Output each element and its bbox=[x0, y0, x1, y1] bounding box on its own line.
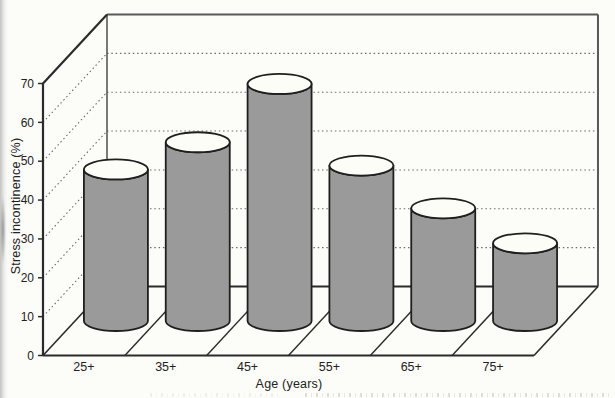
bar-cylinder-75+ bbox=[493, 243, 557, 331]
bar-cylinder-35+ bbox=[166, 142, 230, 331]
x-category-label-55+: 55+ bbox=[319, 360, 340, 374]
gridline-leftwall-60 bbox=[43, 53, 107, 122]
chart-canvas: 01020304050607025+35+45+55+65+75+ bbox=[0, 0, 615, 398]
bar-top-35+ bbox=[166, 132, 230, 152]
bar-top-25+ bbox=[84, 159, 148, 179]
x-category-label-35+: 35+ bbox=[155, 360, 176, 374]
x-category-label-25+: 25+ bbox=[73, 360, 94, 374]
bar-top-55+ bbox=[329, 156, 393, 176]
leftwall-top-edge bbox=[43, 15, 107, 84]
y-tick-label-60: 60 bbox=[21, 116, 35, 130]
bar-top-45+ bbox=[248, 74, 312, 94]
x-category-label-45+: 45+ bbox=[237, 360, 258, 374]
y-tick-label-70: 70 bbox=[21, 77, 35, 91]
bar-cylinder-55+ bbox=[329, 166, 393, 331]
bar-cylinder-45+ bbox=[248, 84, 312, 331]
bar-cylinder-25+ bbox=[84, 169, 148, 331]
gridline-leftwall-50 bbox=[43, 92, 107, 161]
bar-cylinder-65+ bbox=[411, 208, 475, 331]
bar-top-75+ bbox=[493, 233, 557, 253]
x-axis-title: Age (years) bbox=[256, 377, 323, 391]
x-category-label-75+: 75+ bbox=[482, 360, 503, 374]
y-tick-label-0: 0 bbox=[27, 349, 34, 363]
bar-top-65+ bbox=[411, 198, 475, 218]
y-axis-title: Stress incontinence (%) bbox=[9, 138, 23, 275]
chart-figure: 01020304050607025+35+45+55+65+75+ Stress… bbox=[0, 0, 615, 398]
y-tick-label-10: 10 bbox=[21, 310, 35, 324]
x-category-label-65+: 65+ bbox=[401, 360, 422, 374]
